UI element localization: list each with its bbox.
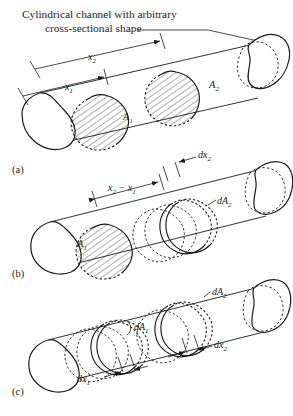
cylindrical-channel-figure: Cylindrical channel with arbitrary cross… [0,0,293,416]
panel-label-c: (c) [12,386,24,398]
title-line-1: Cylindrical channel with arbitrary [22,8,177,20]
title-line-2: cross-sectional shape [45,22,141,34]
panel-label-a: (a) [12,164,24,176]
panel-label-b: (b) [12,268,25,280]
